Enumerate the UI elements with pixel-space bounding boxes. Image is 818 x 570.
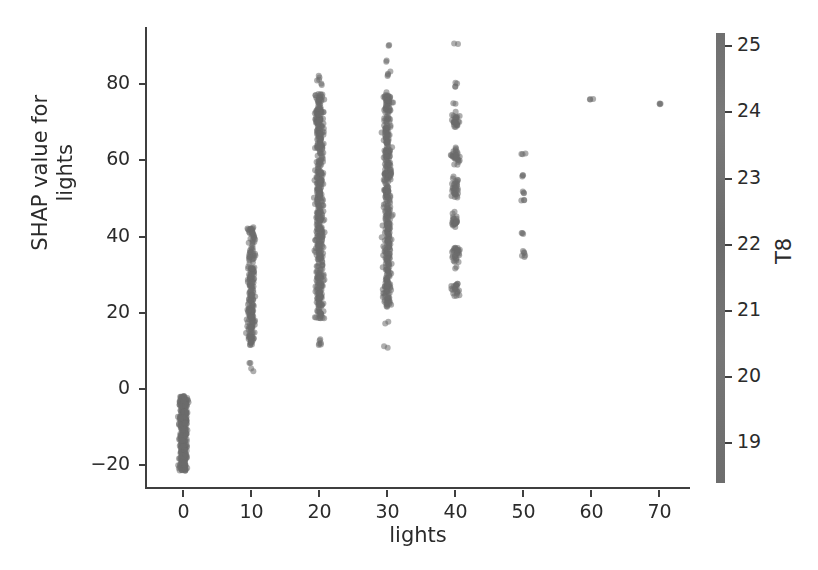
- x-tick-label: 60: [561, 500, 621, 522]
- colorbar-tick-mark: [725, 45, 732, 47]
- y-tick-mark: [139, 236, 146, 238]
- y-tick-label: −20: [56, 452, 130, 474]
- y-axis-label: SHAP value for lights: [28, 58, 78, 288]
- colorbar-tick-label: 22: [737, 232, 761, 254]
- shap-dependence-figure: −20020406080 010203040506070 SHAP value …: [0, 0, 818, 570]
- colorbar-tick-mark: [725, 244, 732, 246]
- x-tick-label: 40: [425, 500, 485, 522]
- colorbar-label: T8: [772, 216, 796, 286]
- colorbar-tick-mark: [725, 442, 732, 444]
- x-tick-mark: [182, 490, 184, 497]
- colorbar-tick-mark: [725, 376, 732, 378]
- plot-area: [146, 27, 690, 488]
- y-tick-label: 0: [56, 376, 130, 398]
- x-tick-label: 10: [221, 500, 281, 522]
- x-tick-mark: [250, 490, 252, 497]
- y-tick-mark: [139, 312, 146, 314]
- y-tick-mark: [139, 83, 146, 85]
- colorbar-tick-mark: [725, 310, 732, 312]
- x-tick-label: 50: [493, 500, 553, 522]
- colorbar-tick-mark: [725, 178, 732, 180]
- y-tick-label: 20: [56, 300, 130, 322]
- colorbar-tick-label: 23: [737, 166, 761, 188]
- x-tick-label: 30: [357, 500, 417, 522]
- colorbar-tick-mark: [725, 111, 732, 113]
- scatter-points-layer: [146, 27, 690, 488]
- y-tick-mark: [139, 159, 146, 161]
- colorbar-tick-label: 24: [737, 99, 761, 121]
- colorbar-gradient: [716, 33, 725, 483]
- x-axis-label: lights: [146, 523, 690, 547]
- y-axis-spine: [145, 27, 147, 489]
- x-tick-label: 0: [153, 500, 213, 522]
- x-tick-mark: [522, 490, 524, 497]
- colorbar-tick-label: 20: [737, 364, 761, 386]
- y-tick-mark: [139, 388, 146, 390]
- x-tick-label: 20: [289, 500, 349, 522]
- colorbar-tick-label: 19: [737, 430, 761, 452]
- x-tick-mark: [590, 490, 592, 497]
- x-tick-mark: [386, 490, 388, 497]
- x-tick-mark: [318, 490, 320, 497]
- x-tick-mark: [454, 490, 456, 497]
- colorbar: 19202122232425 T8: [716, 27, 816, 488]
- y-tick-mark: [139, 464, 146, 466]
- colorbar-tick-label: 25: [737, 33, 761, 55]
- x-tick-label: 70: [629, 500, 689, 522]
- colorbar-tick-label: 21: [737, 298, 761, 320]
- x-axis-spine: [145, 487, 690, 489]
- x-tick-mark: [658, 490, 660, 497]
